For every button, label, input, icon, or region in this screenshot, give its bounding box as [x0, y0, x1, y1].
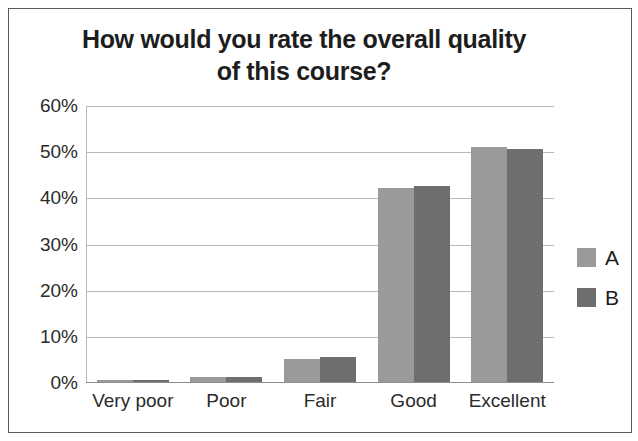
- x-axis-tick-label: Excellent: [469, 390, 546, 412]
- bar-a: [97, 380, 133, 382]
- bar-b: [414, 186, 450, 382]
- x-axis-tick-label: Poor: [206, 390, 246, 412]
- y-axis-tick-label: 50%: [14, 141, 78, 163]
- y-axis-tick-label: 0%: [14, 372, 78, 394]
- chart-legend: AB: [577, 237, 619, 317]
- bars-layer: [86, 106, 554, 383]
- y-axis-tick-label: 60%: [14, 95, 78, 117]
- y-axis-tick-label: 30%: [14, 234, 78, 256]
- bar-group: [190, 105, 262, 382]
- x-axis-tick-label: Fair: [304, 390, 337, 412]
- bar-a: [284, 359, 320, 382]
- legend-swatch-icon: [577, 248, 596, 267]
- legend-item-b: B: [577, 277, 619, 317]
- bar-b: [226, 377, 262, 382]
- bar-a: [471, 147, 507, 382]
- bar-group: [97, 105, 169, 382]
- chart-title: How would you rate the overall quality o…: [39, 23, 569, 87]
- legend-label: B: [605, 287, 619, 308]
- y-axis-tick-label: 10%: [14, 326, 78, 348]
- x-axis-tick-labels: Very poorPoorFairGoodExcellent: [86, 390, 554, 430]
- legend-item-a: A: [577, 237, 619, 277]
- legend-label: A: [605, 247, 619, 268]
- y-axis-tick-label: 40%: [14, 187, 78, 209]
- y-axis-tick-labels: 0%10%20%30%40%50%60%: [12, 106, 78, 383]
- legend-swatch-icon: [577, 288, 596, 307]
- bar-b: [507, 149, 543, 382]
- bar-b: [133, 380, 169, 382]
- chart-frame: How would you rate the overall quality o…: [8, 8, 632, 433]
- bar-group: [378, 105, 450, 382]
- bar-a: [190, 377, 226, 382]
- chart-title-line-1: How would you rate the overall quality: [39, 23, 569, 55]
- bar-a: [378, 188, 414, 382]
- y-axis-tick-label: 20%: [14, 280, 78, 302]
- bar-group: [284, 105, 356, 382]
- x-axis-tick-label: Good: [390, 390, 436, 412]
- chart-title-line-2: of this course?: [39, 55, 569, 87]
- x-axis-tick-label: Very poor: [92, 390, 173, 412]
- bar-b: [320, 357, 356, 382]
- bar-group: [471, 105, 543, 382]
